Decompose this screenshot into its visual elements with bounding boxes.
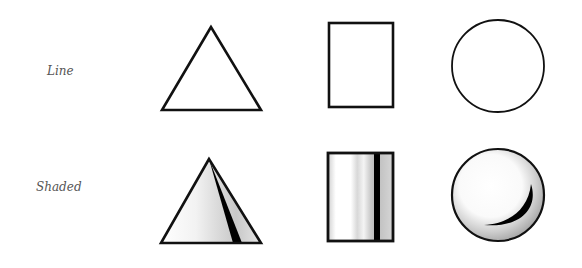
shaded-rectangle: [328, 153, 393, 241]
line-circle: [452, 20, 544, 112]
line-triangle: [162, 27, 261, 110]
shapes-canvas: [0, 0, 582, 268]
shaded-sphere: [452, 149, 544, 241]
line-rectangle: [329, 23, 393, 107]
shaded-triangle: [161, 159, 261, 243]
